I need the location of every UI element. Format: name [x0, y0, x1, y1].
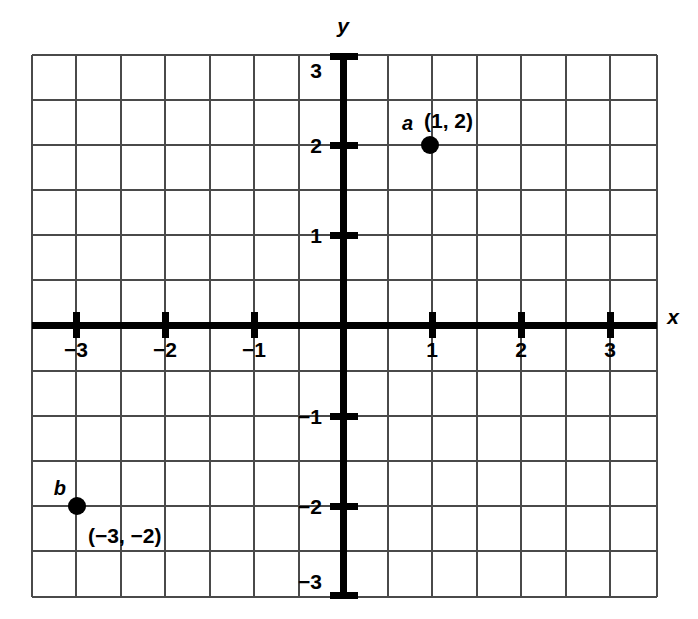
- y-tick-label--3: −3: [298, 570, 322, 593]
- y-tick-label--2: −2: [298, 495, 322, 518]
- x-axis-label: x: [666, 305, 680, 328]
- y-tick-label--1: −1: [298, 405, 322, 428]
- coordinate-plane-figure: −3 −2 −1 1 2 3 3 2 1 −1 −2 −3 x y a (1, …: [0, 0, 698, 619]
- y-tick-label-2: 2: [310, 134, 322, 157]
- x-tick-label-3: 3: [604, 338, 616, 361]
- y-tick-label-1: 1: [310, 224, 322, 247]
- x-tick-label--3: −3: [64, 338, 88, 361]
- point-marker-a: [421, 136, 439, 154]
- x-tick-label--2: −2: [153, 338, 177, 361]
- coordinate-plane-svg: −3 −2 −1 1 2 3 3 2 1 −1 −2 −3 x y a (1, …: [0, 0, 698, 619]
- y-axis-label: y: [336, 14, 350, 37]
- x-tick-label-2: 2: [515, 338, 527, 361]
- x-tick-label-1: 1: [426, 338, 438, 361]
- point-label-b: b: [54, 477, 66, 499]
- point-coords-a: (1, 2): [424, 109, 473, 132]
- point-coords-b: (−3, −2): [88, 524, 162, 547]
- point-marker-b: [68, 497, 86, 515]
- x-tick-label--1: −1: [242, 338, 266, 361]
- y-tick-label-3: 3: [310, 59, 322, 82]
- point-label-a: a: [402, 112, 413, 134]
